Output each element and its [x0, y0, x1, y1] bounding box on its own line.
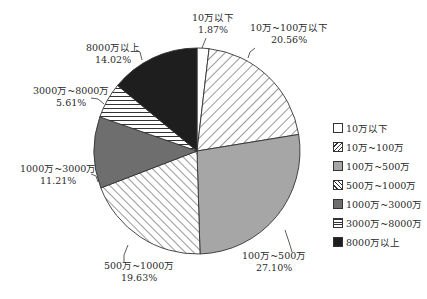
legend-item: 8000万以上 [333, 232, 422, 251]
legend-item: 500万~1000万 [333, 175, 422, 194]
legend-item: 1000万~3000万 [333, 194, 422, 213]
legend-item: 3000万~8000万 [333, 213, 422, 232]
leader-line [285, 230, 292, 252]
pie-slice [197, 49, 299, 151]
slice-label-0: 10万以下 1.87% [192, 12, 234, 36]
legend-swatch-darkgray [333, 199, 343, 209]
slice-label-6: 8000万以上 14.02% [86, 42, 140, 66]
legend-item: 10万以下 [333, 118, 422, 137]
pie-slices [94, 48, 300, 254]
leader-line [202, 38, 206, 48]
slice-label-1: 10万~100万以下 20.56% [250, 22, 328, 46]
legend-swatch-hatch-forward [333, 142, 343, 152]
slice-label-4: 1000万~3000万 11.21% [20, 163, 96, 187]
legend-item: 10万~100万 [333, 137, 422, 156]
legend-swatch-hatch-back [333, 180, 343, 190]
leader-line [248, 48, 255, 58]
slice-label-5: 3000万~8000万 5.61% [33, 85, 109, 109]
legend-item: 100万~500万 [333, 156, 422, 175]
pie-slice [197, 134, 300, 254]
legend-swatch-white [333, 123, 343, 133]
legend-swatch-black [333, 237, 343, 247]
slice-label-2: 100万~500万 27.10% [242, 250, 306, 274]
chart-legend: 10万以下 10万~100万 100万~500万 500万~1000万 1000… [333, 118, 422, 251]
legend-swatch-hatch-horizontal [333, 218, 343, 228]
slice-label-3: 500万~1000万 19.63% [104, 260, 174, 284]
legend-swatch-gray [333, 161, 343, 171]
